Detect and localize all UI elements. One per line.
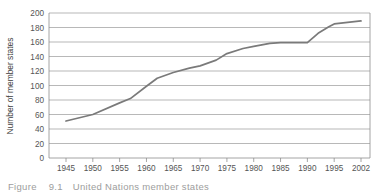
x-axis-tick-label: 1955 xyxy=(111,164,130,173)
y-axis-tick-label: 160 xyxy=(30,38,44,47)
y-axis-tick-labels: 020406080100120140160180200 xyxy=(30,9,44,163)
x-axis-tick-label: 1995 xyxy=(325,164,344,173)
x-axis-tick-label: 1960 xyxy=(137,164,156,173)
x-axis-tick-label: 1945 xyxy=(57,164,76,173)
chart-svg: 020406080100120140160180200 194519501955… xyxy=(0,0,388,178)
x-axis-tick-label: 1980 xyxy=(245,164,264,173)
x-axis-tick-label: 1975 xyxy=(218,164,237,173)
y-axis-tick-label: 40 xyxy=(35,125,45,134)
y-axis-tick-label: 120 xyxy=(30,67,44,76)
x-axis-tick-label: 1970 xyxy=(191,164,210,173)
x-axis-tick-labels: 1945195019551960196519701975198019851990… xyxy=(57,164,371,173)
x-axis-tick-label: 2002 xyxy=(352,164,371,173)
y-axis-tick-label: 0 xyxy=(39,154,44,163)
figure-united-nations-member-states: 020406080100120140160180200 194519501955… xyxy=(0,0,388,195)
caption-label: Figure xyxy=(8,181,37,192)
x-axis-tick-label: 1965 xyxy=(164,164,183,173)
y-axis-tick-label: 60 xyxy=(35,111,45,120)
y-axis-title: Number of member states xyxy=(5,38,15,135)
y-axis-tick-label: 100 xyxy=(30,82,44,91)
x-axis-tick-label: 1985 xyxy=(271,164,290,173)
caption-text: United Nations member states xyxy=(73,181,209,192)
y-axis-tick-label: 20 xyxy=(35,140,45,149)
x-axis-tick-label: 1990 xyxy=(298,164,317,173)
y-axis-tick-label: 140 xyxy=(30,53,44,62)
y-axis-tick-label: 80 xyxy=(35,96,45,105)
gridlines-group xyxy=(49,13,370,144)
x-axis-tick-marks xyxy=(66,158,361,162)
y-axis-tick-label: 180 xyxy=(30,24,44,33)
caption-number: 9.1 xyxy=(49,181,63,192)
line-chart: 020406080100120140160180200 194519501955… xyxy=(0,0,388,178)
figure-caption: Figure9.1United Nations member states xyxy=(8,181,380,195)
x-axis-tick-label: 1950 xyxy=(84,164,103,173)
y-axis-tick-label: 200 xyxy=(30,9,44,18)
